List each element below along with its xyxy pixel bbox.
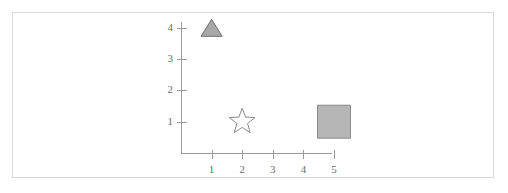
figure-canvas: 123412345	[0, 0, 508, 193]
plot-area: 123412345	[0, 0, 508, 193]
x-tick-label: 4	[296, 164, 310, 175]
x-tick-label: 2	[235, 164, 249, 175]
axes-and-markers	[0, 0, 508, 193]
star-marker	[229, 108, 255, 132]
y-tick-label: 2	[159, 84, 173, 95]
square-marker	[318, 105, 351, 138]
axis-lines	[182, 22, 333, 154]
x-tick-label: 3	[266, 164, 280, 175]
data-markers	[201, 19, 350, 138]
x-tick-label: 1	[205, 164, 219, 175]
x-tick-label: 5	[327, 164, 341, 175]
triangle-marker	[201, 19, 222, 36]
y-tick-label: 1	[159, 116, 173, 127]
y-tick-label: 4	[159, 22, 173, 33]
y-tick-label: 3	[159, 53, 173, 64]
axis-ticks	[177, 28, 335, 158]
